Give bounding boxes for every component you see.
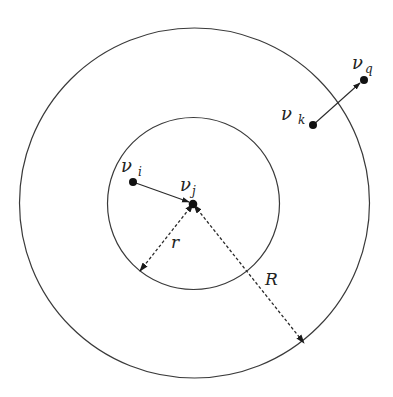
label-vj-symbol: ν	[180, 174, 191, 195]
label-vk-symbol: ν	[281, 103, 292, 124]
node-vi	[129, 178, 137, 186]
label-vq-subscript: q	[365, 62, 373, 76]
node-vk	[309, 121, 317, 129]
inner-radius-label: r	[171, 232, 180, 252]
edge-vk-vq	[313, 83, 360, 125]
outer-radius-arrow	[194, 205, 304, 343]
label-vi-subscript: i	[138, 165, 142, 179]
inner-radius-arrow	[140, 204, 193, 271]
label-vi-symbol: ν	[121, 155, 132, 176]
node-vj	[189, 200, 198, 209]
label-vq: ν q	[352, 52, 373, 76]
label-vq-symbol: ν	[352, 52, 363, 73]
label-vj: ν j	[180, 174, 196, 198]
node-vq	[360, 76, 368, 84]
concentric-circles-diagram: ν i ν j ν k ν q r R	[0, 0, 393, 397]
outer-radius-label: R	[264, 269, 278, 289]
label-vi: ν i	[121, 155, 142, 179]
label-vk: ν k	[281, 103, 305, 127]
label-vk-subscript: k	[298, 113, 305, 127]
